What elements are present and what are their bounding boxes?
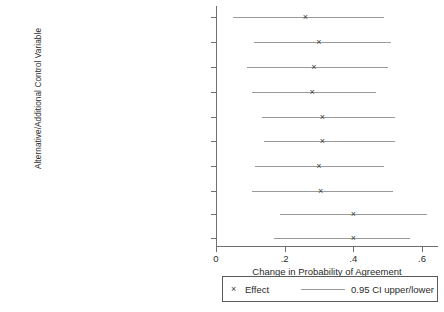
x-tick-label: 0 <box>213 253 218 264</box>
x-tick <box>422 247 423 252</box>
y-tick <box>211 214 216 215</box>
x-tick <box>285 247 286 252</box>
ci-line <box>254 42 391 43</box>
ci-line <box>274 238 410 239</box>
effect-marker: × <box>303 13 308 22</box>
y-tick <box>211 238 216 239</box>
y-tick <box>211 117 216 118</box>
plot-area: Change in Probability of Agreement 0.2.4… <box>216 6 438 246</box>
y-tick <box>211 42 216 43</box>
effect-marker: × <box>318 187 323 196</box>
x-tick-label: .6 <box>418 253 426 264</box>
ci-line <box>262 117 394 118</box>
legend-effect-label: Effect <box>245 284 269 295</box>
effect-marker: × <box>320 137 325 146</box>
effect-marker: × <box>311 63 316 72</box>
legend-ci-label: 0.95 CI upper/lower <box>351 284 434 295</box>
legend-effect-marker-icon: × <box>231 284 236 294</box>
y-tick <box>211 67 216 68</box>
legend: × Effect 0.95 CI upper/lower <box>222 276 438 302</box>
legend-ci-line-icon <box>301 289 345 290</box>
y-tick <box>211 191 216 192</box>
y-tick <box>211 92 216 93</box>
x-tick-label: .2 <box>281 253 289 264</box>
y-tick <box>211 17 216 18</box>
category-label-group: Use Country DummiesUse Personnel RatioUs… <box>0 0 216 246</box>
forest-plot-chart: Alternative/Additional Control Variable … <box>0 0 444 312</box>
y-tick <box>211 166 216 167</box>
effect-marker: × <box>320 113 325 122</box>
ci-line <box>264 141 394 142</box>
effect-marker: × <box>351 210 356 219</box>
x-tick-label: .4 <box>349 253 357 264</box>
ci-line <box>233 17 384 18</box>
x-tick <box>353 247 354 252</box>
ci-line <box>247 67 388 68</box>
x-axis-line <box>216 246 438 247</box>
effect-marker: × <box>316 38 321 47</box>
x-tick <box>216 247 217 252</box>
effect-marker: × <box>351 234 356 243</box>
effect-marker: × <box>316 162 321 171</box>
y-tick <box>211 141 216 142</box>
y-axis-line <box>216 6 217 246</box>
effect-marker: × <box>309 88 314 97</box>
